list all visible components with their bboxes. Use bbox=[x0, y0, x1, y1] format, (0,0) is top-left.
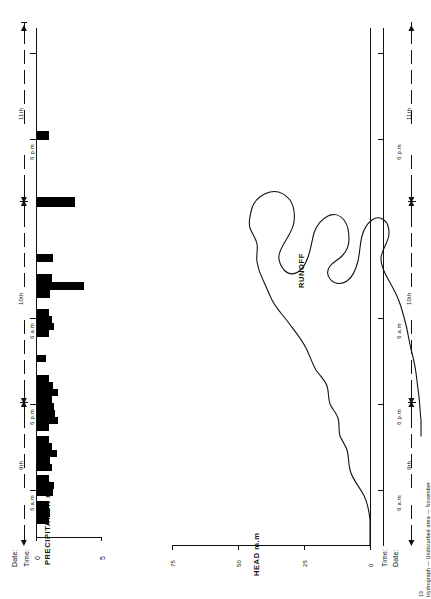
figure-caption-number: 13 bbox=[419, 591, 424, 597]
figure-page: 0 5 PRECIPITATION m.m Date: Time: bbox=[0, 0, 431, 599]
figure-caption: Hydrograph — Undisturbed area — November bbox=[426, 482, 431, 597]
date-boundary-arrows-right bbox=[0, 0, 431, 599]
